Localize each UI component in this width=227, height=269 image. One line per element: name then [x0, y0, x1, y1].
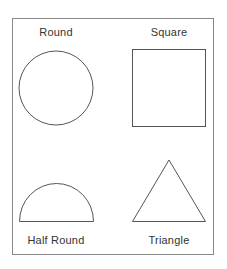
label-square: Square: [151, 26, 188, 38]
label-half-round: Half Round: [27, 234, 84, 246]
diagram-canvas: [0, 0, 227, 269]
shapes-diagram: Round Square Half Round Triangle: [0, 0, 227, 269]
square-shape: [133, 50, 206, 127]
circle-shape: [19, 51, 93, 125]
label-round: Round: [39, 26, 72, 38]
label-triangle: Triangle: [149, 234, 190, 246]
half-round-shape: [20, 184, 94, 222]
triangle-shape: [133, 160, 206, 222]
